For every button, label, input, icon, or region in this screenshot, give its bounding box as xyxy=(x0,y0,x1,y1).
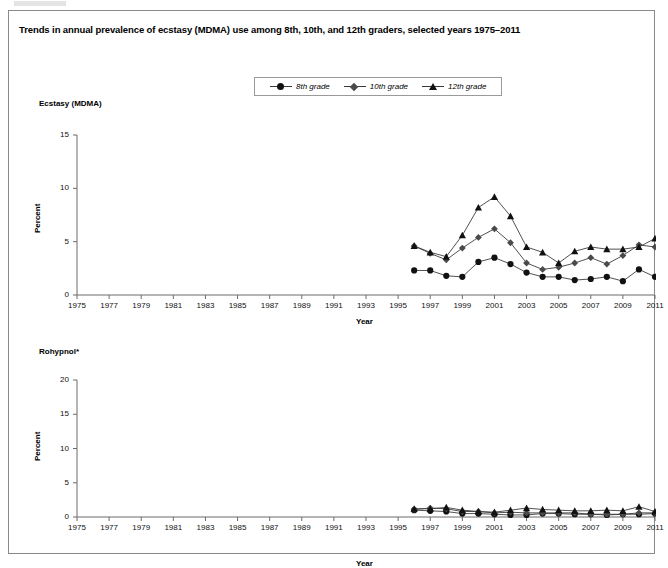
y-tick-label: 10 xyxy=(47,444,69,453)
x-tick-label: 1993 xyxy=(351,301,381,310)
x-tick-label: 1977 xyxy=(94,523,124,532)
x-tick-label: 1997 xyxy=(415,523,445,532)
x-tick-label: 1975 xyxy=(62,523,92,532)
x-tick-label: 1981 xyxy=(158,301,188,310)
y-tick-label: 0 xyxy=(47,290,69,299)
x-tick-label: 1993 xyxy=(351,523,381,532)
x-tick-label: 1991 xyxy=(319,301,349,310)
x-tick-label: 1995 xyxy=(383,301,413,310)
x-tick-label: 1999 xyxy=(447,301,477,310)
y-tick-label: 15 xyxy=(47,409,69,418)
x-tick-label: 2001 xyxy=(479,523,509,532)
x-tick-label: 2009 xyxy=(608,523,638,532)
x-tick-label: 2005 xyxy=(544,523,574,532)
y-tick-label: 0 xyxy=(47,512,69,521)
x-tick-label: 1989 xyxy=(287,523,317,532)
x-tick-label: 2011 xyxy=(640,301,668,310)
x-tick-label: 2003 xyxy=(512,523,542,532)
y-tick-label: 10 xyxy=(47,183,69,192)
y-tick-label: 15 xyxy=(47,130,69,139)
x-tick-label: 1987 xyxy=(255,523,285,532)
x-tick-label: 2009 xyxy=(608,301,638,310)
x-tick-label: 1985 xyxy=(223,301,253,310)
x-tick-label: 1981 xyxy=(158,523,188,532)
x-axis-label-rohypnol: Year xyxy=(356,559,373,568)
x-tick-label: 1977 xyxy=(94,301,124,310)
x-tick-label: 1979 xyxy=(126,301,156,310)
x-tick-label: 2011 xyxy=(640,523,668,532)
scan-artifact xyxy=(14,1,66,6)
plot-area-rohypnol xyxy=(9,331,656,555)
x-tick-label: 1975 xyxy=(62,301,92,310)
x-tick-label: 1995 xyxy=(383,523,413,532)
x-tick-label: 2003 xyxy=(512,301,542,310)
chart-panel-rohypnol: Rohypnol* Percent Year 05101520197519771… xyxy=(9,331,656,555)
x-tick-label: 1983 xyxy=(190,301,220,310)
x-tick-label: 2005 xyxy=(544,301,574,310)
x-tick-label: 1999 xyxy=(447,523,477,532)
x-tick-label: 1983 xyxy=(190,523,220,532)
x-tick-label: 2001 xyxy=(479,301,509,310)
x-tick-label: 1989 xyxy=(287,301,317,310)
x-tick-label: 1985 xyxy=(223,523,253,532)
figure-frame: Trends in annual prevalence of ecstasy (… xyxy=(8,10,655,554)
y-tick-label: 5 xyxy=(47,478,69,487)
plot-area-ecstasy xyxy=(9,11,656,331)
x-tick-label: 1997 xyxy=(415,301,445,310)
y-tick-label: 20 xyxy=(47,375,69,384)
x-tick-label: 2007 xyxy=(576,301,606,310)
chart-panel-ecstasy: Ecstasy (MDMA) Percent Year 051015197519… xyxy=(9,11,656,331)
y-tick-label: 5 xyxy=(47,237,69,246)
x-tick-label: 1979 xyxy=(126,523,156,532)
x-tick-label: 1987 xyxy=(255,301,285,310)
x-tick-label: 1991 xyxy=(319,523,349,532)
x-tick-label: 2007 xyxy=(576,523,606,532)
